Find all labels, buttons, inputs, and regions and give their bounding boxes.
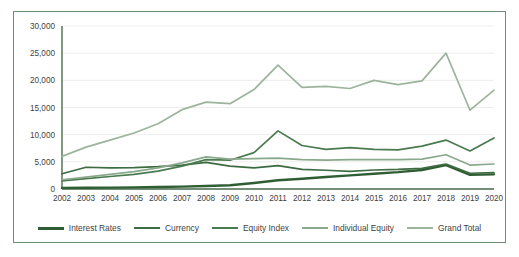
legend-label: Grand Total — [438, 223, 481, 233]
x-axis-tick-label: 2017 — [413, 194, 432, 203]
legend-label: Currency — [165, 223, 199, 233]
x-axis-tick-label: 2018 — [437, 194, 456, 203]
x-axis-tick-label: 2007 — [173, 194, 192, 203]
x-axis-tick-label: 2020 — [485, 194, 504, 203]
x-axis-tick-label: 2006 — [149, 194, 168, 203]
x-axis-tick-label: 2012 — [293, 194, 312, 203]
series-line-grand-total — [62, 53, 494, 156]
line-chart-svg: 05,00010,00015,00020,00025,00030,0002002… — [14, 12, 504, 241]
x-axis-tick-label: 2009 — [221, 194, 240, 203]
y-axis-tick-label: 30,000 — [30, 22, 55, 31]
x-axis-tick-label: 2019 — [461, 194, 480, 203]
legend-label: Interest Rates — [69, 223, 121, 233]
series-line-equity-index — [62, 131, 494, 181]
x-axis-tick-label: 2002 — [53, 194, 72, 203]
legend-swatch-icon — [302, 227, 328, 229]
y-axis-tick-label: 20,000 — [30, 76, 55, 85]
x-axis-tick-label: 2005 — [125, 194, 144, 203]
legend-swatch-icon — [134, 227, 160, 229]
y-axis-tick-label: 25,000 — [30, 49, 55, 58]
legend-item-equity-index[interactable]: Equity Index — [212, 223, 289, 233]
x-axis-tick-label: 2014 — [341, 194, 360, 203]
legend-item-interest-rates[interactable]: Interest Rates — [38, 223, 121, 233]
legend-swatch-icon — [38, 227, 64, 230]
y-axis-tick-label: 5,000 — [35, 158, 56, 167]
legend-swatch-icon — [407, 227, 433, 229]
chart-legend: Interest RatesCurrencyEquity IndexIndivi… — [14, 223, 505, 233]
legend-item-currency[interactable]: Currency — [134, 223, 199, 233]
legend-swatch-icon — [212, 227, 238, 229]
legend-item-individual-equity[interactable]: Individual Equity — [302, 223, 394, 233]
y-axis-tick-label: 0 — [50, 185, 55, 194]
legend-item-grand-total[interactable]: Grand Total — [407, 223, 481, 233]
x-axis-tick-label: 2016 — [389, 194, 408, 203]
x-axis-tick-label: 2011 — [269, 194, 287, 203]
series-line-interest-rates — [62, 165, 494, 188]
x-axis-tick-label: 2004 — [101, 194, 120, 203]
y-axis-tick-label: 15,000 — [30, 104, 55, 113]
legend-label: Equity Index — [243, 223, 289, 233]
x-axis-tick-label: 2010 — [245, 194, 264, 203]
chart-card: 05,00010,00015,00020,00025,00030,0002002… — [13, 11, 506, 243]
legend-label: Individual Equity — [333, 223, 394, 233]
x-axis-tick-label: 2015 — [365, 194, 384, 203]
y-axis-tick-label: 10,000 — [30, 131, 55, 140]
chart-plot-area: 05,00010,00015,00020,00025,00030,0002002… — [14, 12, 505, 242]
x-axis-tick-label: 2003 — [77, 194, 96, 203]
x-axis-tick-label: 2013 — [317, 194, 336, 203]
x-axis-tick-label: 2008 — [197, 194, 216, 203]
